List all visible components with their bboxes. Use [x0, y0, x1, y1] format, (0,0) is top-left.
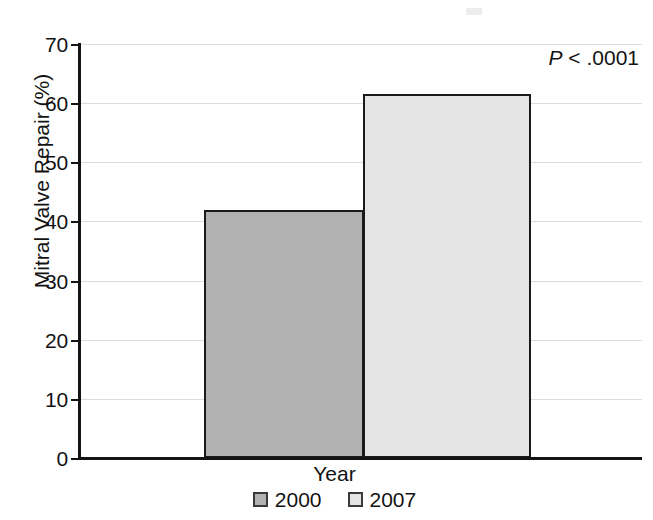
y-tick-mark-40 — [71, 221, 79, 223]
y-tick-mark-10 — [71, 399, 79, 401]
x-axis-title: Year — [0, 462, 653, 486]
legend-label-2007: 2007 — [370, 489, 417, 510]
y-axis-line — [78, 43, 81, 460]
legend-label-2000: 2000 — [275, 489, 322, 510]
legend-swatch-2000 — [253, 492, 268, 507]
y-tick-label-10: 10 — [8, 389, 68, 410]
legend-swatch-2007 — [348, 492, 363, 507]
p-value-annotation: P < .0001 — [549, 46, 640, 70]
chart-figure: 70 60 50 40 30 20 10 0 Mitral Valve Repa… — [0, 0, 653, 520]
y-tick-mark-50 — [71, 162, 79, 164]
y-tick-mark-60 — [71, 103, 79, 105]
gridline-60 — [78, 103, 642, 104]
y-tick-mark-20 — [71, 340, 79, 342]
legend-item-2007[interactable]: 2007 — [348, 489, 417, 510]
p-value-text: < .0001 — [563, 46, 639, 69]
bar-2007[interactable] — [363, 94, 531, 458]
chart-legend: 2000 2007 — [0, 489, 653, 510]
y-tick-mark-30 — [71, 281, 79, 283]
legend-item-2000[interactable]: 2000 — [253, 489, 322, 510]
plot-area — [78, 44, 642, 458]
y-axis-title: Mitral Valve Repair (%) — [31, 21, 53, 341]
x-axis-line — [78, 457, 642, 460]
scan-artifact — [466, 8, 482, 15]
gridline-70 — [78, 44, 642, 45]
p-value-symbol: P — [549, 46, 563, 69]
y-tick-mark-0 — [71, 458, 79, 460]
y-tick-mark-70 — [71, 44, 79, 46]
gridline-50 — [78, 162, 642, 163]
bar-2000[interactable] — [204, 210, 364, 458]
